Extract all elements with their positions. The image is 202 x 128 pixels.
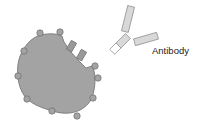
- knob-icon: [90, 95, 96, 101]
- knob-icon: [15, 73, 21, 79]
- knob-icon: [74, 113, 80, 119]
- antibody-label: Antibody: [152, 45, 189, 56]
- knob-icon: [21, 48, 27, 54]
- receptor-icon: [76, 49, 86, 61]
- knob-icon: [57, 29, 63, 35]
- knob-icon: [92, 63, 98, 69]
- knob-icon: [24, 96, 30, 102]
- knob-icon: [49, 108, 55, 114]
- knob-icon: [37, 30, 43, 36]
- knob-icon: [95, 75, 101, 81]
- antibody-upper-arm: [121, 6, 134, 33]
- receptor-icon: [66, 40, 76, 52]
- antibody-right-arm: [134, 32, 159, 45]
- diagram-canvas: [0, 0, 202, 128]
